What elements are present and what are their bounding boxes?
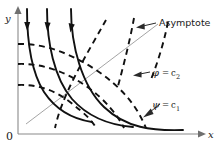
x-axis-arrowhead xyxy=(198,130,206,137)
flow-direction-arrow-icon xyxy=(45,22,51,32)
asymptote-label: Asymptote xyxy=(159,17,211,28)
equipotential-equals: = xyxy=(162,68,169,78)
streamline-equals: = xyxy=(162,100,169,110)
streamline-curve xyxy=(27,9,92,122)
asymptote-leader-arrow-icon xyxy=(136,23,145,29)
streamline-subscript: 1 xyxy=(176,105,180,113)
flow-direction-arrow-icon xyxy=(24,22,30,31)
equipotential-subscript: 2 xyxy=(176,73,180,81)
asymptote-leader-line xyxy=(143,23,156,26)
y-axis-arrowhead xyxy=(14,6,21,14)
equipotential-label: φ = c 2 xyxy=(152,67,180,81)
streamline-symbol: ψ xyxy=(152,99,160,110)
streamline-label: ψ = c 1 xyxy=(152,99,180,113)
equipotential-symbol: φ xyxy=(152,67,159,78)
diagram-svg: y x 0 Asymptote φ = c 2 ψ = c 1 xyxy=(0,0,219,150)
flow-direction-arrow-group xyxy=(24,22,75,33)
figure-canvas: y x 0 Asymptote φ = c 2 ψ = c 1 xyxy=(0,0,219,150)
equipotential-leader-arrow-icon xyxy=(133,71,142,77)
x-axis-label: x xyxy=(208,129,214,140)
y-axis-label: y xyxy=(4,13,11,24)
origin-label: 0 xyxy=(6,130,13,143)
